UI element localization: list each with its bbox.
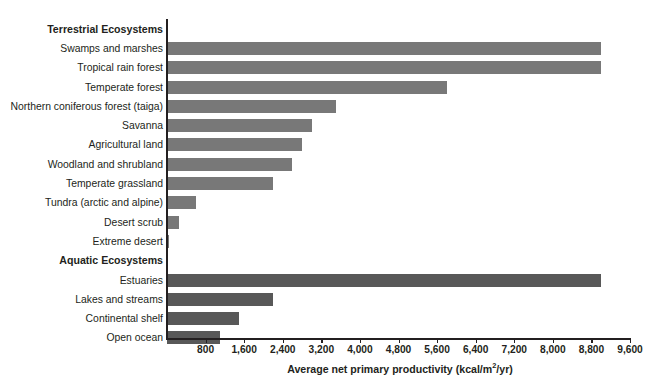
chart-row: Temperate forest — [0, 78, 653, 97]
x-tick — [514, 338, 515, 343]
category-label: Temperate grassland — [0, 174, 163, 193]
chart-row: Continental shelf — [0, 309, 653, 328]
chart-row: Temperate grassland — [0, 174, 653, 193]
bar — [167, 293, 273, 306]
category-label: Northern coniferous forest (taiga) — [0, 97, 163, 116]
chart-row: Lakes and streams — [0, 290, 653, 309]
chart-row: Northern coniferous forest (taiga) — [0, 97, 653, 116]
x-tick — [591, 338, 592, 343]
group-heading-label: Terrestrial Ecosystems — [0, 20, 163, 39]
bar-chart: Terrestrial EcosystemsSwamps and marshes… — [0, 0, 653, 387]
x-tick — [283, 338, 284, 343]
category-label: Woodland and shrubland — [0, 155, 163, 174]
bar — [167, 100, 336, 113]
chart-row: Savanna — [0, 116, 653, 135]
x-axis-title-superscript: 2 — [492, 361, 496, 370]
x-tick — [321, 338, 322, 343]
category-label: Extreme desert — [0, 232, 163, 251]
x-tick — [244, 338, 245, 343]
category-label: Temperate forest — [0, 78, 163, 97]
chart-row: Estuaries — [0, 271, 653, 290]
x-tick — [476, 338, 477, 343]
category-label: Open ocean — [0, 328, 163, 347]
bar — [167, 274, 601, 287]
y-axis-line — [166, 19, 168, 339]
chart-row: Woodland and shrubland — [0, 155, 653, 174]
chart-row: Tundra (arctic and alpine) — [0, 193, 653, 212]
category-label: Estuaries — [0, 271, 163, 290]
bar — [167, 312, 239, 325]
category-label: Desert scrub — [0, 213, 163, 232]
x-tick — [206, 338, 207, 343]
group-heading-row: Aquatic Ecosystems — [0, 251, 653, 270]
x-tick — [399, 338, 400, 343]
bar — [167, 196, 196, 209]
bar — [167, 119, 312, 132]
category-label: Swamps and marshes — [0, 39, 163, 58]
x-tick — [630, 338, 631, 343]
x-tick — [360, 338, 361, 343]
category-label: Tundra (arctic and alpine) — [0, 193, 163, 212]
category-label: Continental shelf — [0, 309, 163, 328]
chart-row: Desert scrub — [0, 213, 653, 232]
chart-row: Agricultural land — [0, 135, 653, 154]
bar — [167, 216, 179, 229]
group-heading-row: Terrestrial Ecosystems — [0, 20, 653, 39]
category-label: Tropical rain forest — [0, 58, 163, 77]
category-label: Agricultural land — [0, 135, 163, 154]
bar — [167, 42, 601, 55]
x-tick-label: 9,600 — [600, 344, 653, 355]
bar — [167, 158, 292, 171]
chart-row: Extreme desert — [0, 232, 653, 251]
bar — [167, 138, 302, 151]
bar — [167, 61, 601, 74]
x-axis-title: Average net primary productivity (kcal/m… — [167, 361, 633, 375]
chart-row: Tropical rain forest — [0, 58, 653, 77]
x-tick — [437, 338, 438, 343]
category-label: Savanna — [0, 116, 163, 135]
bar — [167, 81, 447, 94]
category-label: Lakes and streams — [0, 290, 163, 309]
group-heading-label: Aquatic Ecosystems — [0, 251, 163, 270]
x-tick — [553, 338, 554, 343]
bar — [167, 177, 273, 190]
chart-row: Swamps and marshes — [0, 39, 653, 58]
